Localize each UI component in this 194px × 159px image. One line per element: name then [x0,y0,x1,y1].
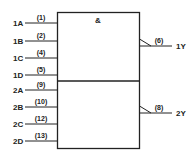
input-label-1d: 1D [13,71,23,80]
pin-number-1y: (6) [155,37,164,45]
pin-number-1a: (1) [37,14,46,22]
pin-number-1b: (2) [37,32,46,40]
input-label-2d: 2D [13,137,23,146]
pin-number-2a: (9) [37,81,46,89]
logic-diagram: & 1A 1B 1C 1D 2A 2B 2C 2D (1) (2) (4) (5… [0,0,194,159]
pin-number-1d: (5) [37,66,46,74]
pin-number-2b: (10) [35,98,47,106]
pin-number-2c: (12) [35,115,47,123]
input-label-1a: 1A [13,19,23,28]
input-label-1c: 1C [13,54,23,63]
pin-number-2y: (8) [155,104,164,112]
input-label-2c: 2C [13,120,23,129]
input-label-2a: 2A [13,86,23,95]
output-label-2y: 2Y [176,109,186,118]
input-label-2b: 2B [13,103,23,112]
output-label-1y: 1Y [176,42,186,51]
pin-number-1c: (4) [37,49,46,57]
output-lines [140,39,173,113]
input-label-1b: 1B [13,37,23,46]
pin-number-2d: (13) [35,132,47,140]
and-symbol: & [95,16,101,25]
